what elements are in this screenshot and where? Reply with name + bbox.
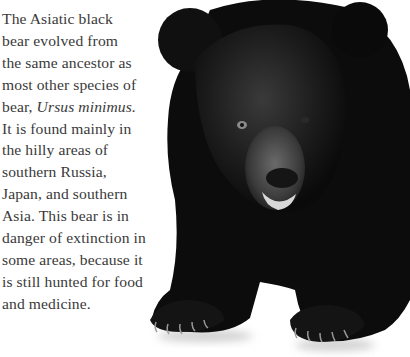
text-fragment: bear,	[2, 98, 37, 115]
text-line: danger of extinction in	[2, 227, 172, 249]
text-line: Asia. This bear is in	[2, 205, 172, 227]
text-line: the hilly areas of	[2, 139, 172, 161]
text-line: the same ancestor as	[2, 52, 172, 74]
text-line: most other species of	[2, 74, 172, 96]
text-line: and medicine.	[2, 293, 172, 315]
text-line: Japan, and southern	[2, 183, 172, 205]
text-line: The Asiatic black	[2, 8, 172, 30]
text-line: some areas, because it	[2, 249, 172, 271]
text-line: bear evolved from	[2, 30, 172, 52]
article-text: The Asiatic black bear evolved from the …	[2, 8, 172, 315]
species-name: Ursus minimus.	[37, 98, 136, 115]
page: The Asiatic black bear evolved from the …	[0, 0, 410, 357]
bear-illustration	[150, 0, 410, 357]
bear-photo	[150, 0, 410, 357]
text-line-species: bear, Ursus minimus.	[2, 96, 172, 118]
text-line: It is found mainly in	[2, 118, 172, 140]
text-line: southern Russia,	[2, 161, 172, 183]
text-line: is still hunted for food	[2, 271, 172, 293]
